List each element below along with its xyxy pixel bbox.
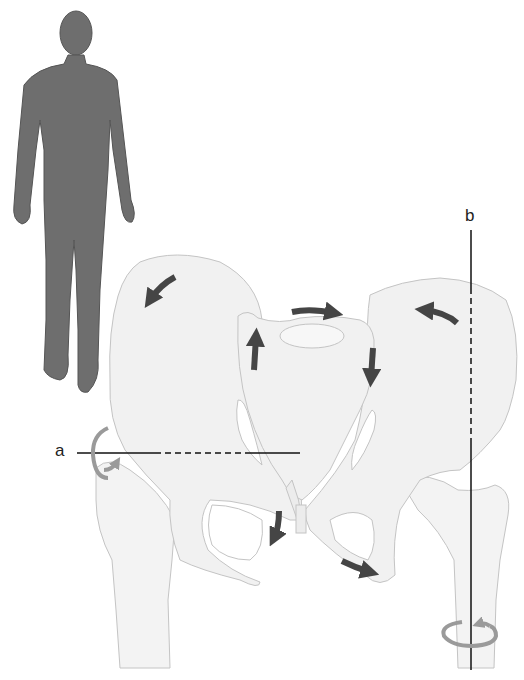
axis-a-label: a (55, 441, 64, 461)
arrow-sacrum-right-down-icon (371, 348, 373, 378)
arrow-sacral-top-icon (292, 310, 334, 313)
pelvis-diagram: a b (0, 0, 524, 680)
axis-b-label: b (465, 206, 474, 226)
arrow-sacrum-left-up-icon (254, 337, 256, 370)
diagram-canvas (0, 0, 524, 680)
arrow-left-pubic-icon (274, 511, 279, 538)
